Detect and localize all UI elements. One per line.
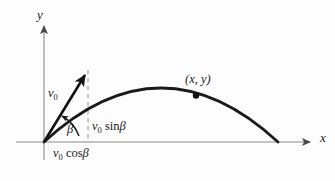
trajectory-point-label: (x, y) [185,73,211,86]
y-axis-label: y [37,8,43,21]
projectile-motion-figure: y x v0 β v0 sinβ v0 cosβ (x, y) [0,0,335,181]
x-axis-label: x [320,131,326,144]
trajectory-point-marker [193,92,199,98]
vertical-component-label: v0 sinβ [92,120,126,134]
trajectory-curve [44,88,278,142]
horizontal-component-label: v0 cosβ [53,147,89,161]
initial-velocity-label: v0 [48,87,58,101]
beta-angle-label: β [67,123,73,136]
